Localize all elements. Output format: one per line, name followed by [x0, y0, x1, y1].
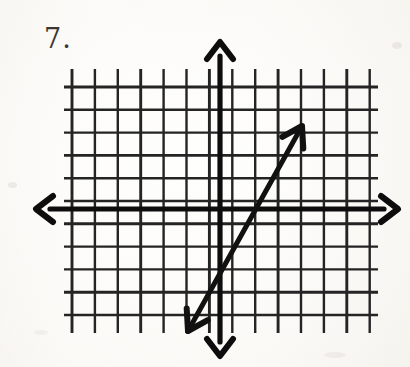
axis-group [36, 42, 398, 356]
coordinate-graph [0, 0, 410, 367]
worksheet-page: 7. [0, 0, 410, 367]
